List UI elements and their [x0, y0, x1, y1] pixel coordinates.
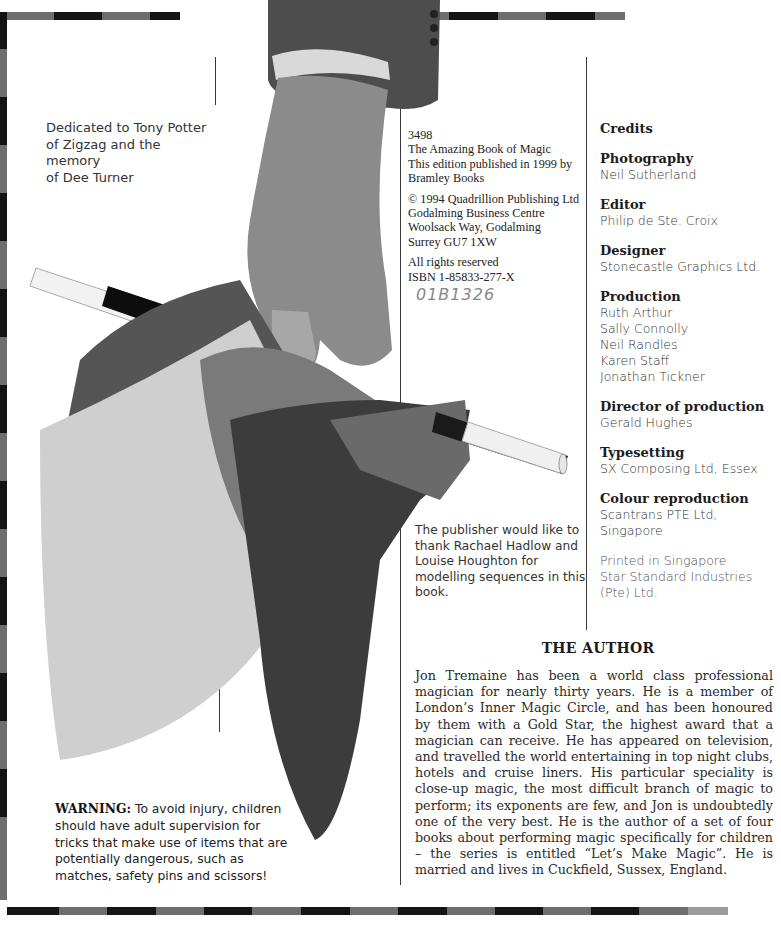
credit-name: Scantrans PTE Ltd,: [600, 507, 780, 523]
credit-name: Jonathan Tickner: [600, 369, 780, 385]
credit-typesetting: Typesetting SX Composing Ltd, Essex: [600, 445, 780, 477]
imprint-block: 3498 The Amazing Book of Magic This edit…: [408, 128, 586, 186]
dedication-line: of Zigzag and the memory: [46, 137, 216, 170]
credit-heading: Photography: [600, 151, 780, 167]
book-title: The Amazing Book of Magic: [408, 142, 586, 156]
acknowledgement-line: The publisher would like to: [415, 523, 590, 539]
credit-heading: Colour reproduction: [600, 491, 780, 507]
printed-line: Star Standard Industries: [600, 569, 780, 585]
imprint-block: All rights reserved ISBN 1-85833-277-X: [408, 255, 586, 284]
dedication-line: of Dee Turner: [46, 170, 216, 187]
credit-heading: Designer: [600, 243, 780, 259]
publisher-name: Bramley Books: [408, 171, 586, 185]
printed-in: Printed in Singapore Star Standard Indus…: [600, 553, 780, 601]
edition-line: This edition published in 1999 by: [408, 157, 586, 171]
printed-line: (Pte) Ltd.: [600, 585, 780, 601]
credit-photography: Photography Neil Sutherland: [600, 151, 780, 183]
imprint-code: 3498: [408, 128, 586, 142]
credit-production: Production Ruth Arthur Sally Connolly Ne…: [600, 289, 780, 385]
author-heading: THE AUTHOR: [415, 640, 781, 656]
credits-panel: Credits Photography Neil Sutherland Edit…: [600, 121, 780, 601]
dedication: Dedicated to Tony Potter of Zigzag and t…: [46, 120, 216, 186]
credit-colour-reproduction: Colour reproduction Scantrans PTE Ltd, S…: [600, 491, 780, 539]
dedication-line: Dedicated to Tony Potter: [46, 120, 216, 137]
credit-name: Karen Staff: [600, 353, 780, 369]
author-bio: Jon Tremaine has been a world class prof…: [415, 668, 773, 879]
acknowledgement: The publisher would like to thank Rachae…: [415, 523, 590, 601]
credit-name: SX Composing Ltd, Essex: [600, 461, 780, 477]
credit-name: Sally Connolly: [600, 321, 780, 337]
acknowledgement-line: thank Rachael Hadlow and: [415, 539, 590, 555]
credit-heading: Editor: [600, 197, 780, 213]
credit-name: Ruth Arthur: [600, 305, 780, 321]
credit-name: Stonecastle Graphics Ltd.: [600, 259, 780, 275]
rights-line: All rights reserved: [408, 255, 586, 269]
printed-line: Printed in Singapore: [600, 553, 780, 569]
credit-name: Neil Randles: [600, 337, 780, 353]
address-line: Woolsack Way, Godalming: [408, 220, 586, 234]
credit-name: Neil Sutherland: [600, 167, 780, 183]
acknowledgement-line: book.: [415, 585, 590, 601]
copyright-line: © 1994 Quadrillion Publishing Ltd: [408, 192, 586, 206]
credit-designer: Designer Stonecastle Graphics Ltd.: [600, 243, 780, 275]
credit-heading: Director of production: [600, 399, 780, 415]
address-line: Godalming Business Centre: [408, 206, 586, 220]
handwritten-number: 01B1326: [416, 288, 586, 302]
warning-notice: WARNING: To avoid injury, children shoul…: [55, 801, 295, 885]
credit-name: Singapore: [600, 523, 780, 539]
credit-heading: Typesetting: [600, 445, 780, 461]
acknowledgement-line: modelling sequences in this: [415, 570, 590, 586]
warning-label: WARNING:: [55, 801, 131, 816]
imprint-block: © 1994 Quadrillion Publishing Ltd Godalm…: [408, 192, 586, 250]
credit-director-of-production: Director of production Gerald Hughes: [600, 399, 780, 431]
credit-name: Gerald Hughes: [600, 415, 780, 431]
isbn-line: ISBN 1-85833-277-X: [408, 270, 586, 284]
credit-editor: Editor Philip de Ste. Croix: [600, 197, 780, 229]
credit-heading: Production: [600, 289, 780, 305]
bottom-border-bar: [7, 907, 781, 915]
address-line: Surrey GU7 1XW: [408, 235, 586, 249]
credit-name: Philip de Ste. Croix: [600, 213, 780, 229]
imprint: 3498 The Amazing Book of Magic This edit…: [408, 128, 586, 302]
acknowledgement-line: Louise Houghton for: [415, 554, 590, 570]
credits-title: Credits: [600, 121, 780, 137]
